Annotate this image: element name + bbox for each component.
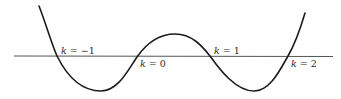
- crossing-label-k-minus-1: k = −1: [61, 46, 95, 56]
- function-graph: [0, 0, 341, 99]
- label-value: = −1: [67, 45, 95, 56]
- diagram-canvas: k = −1 k = 0 k = 1 k = 2: [0, 0, 341, 99]
- label-value: = 1: [220, 45, 240, 56]
- horizontal-axis: [14, 56, 333, 57]
- label-value: = 2: [297, 58, 317, 69]
- crossing-label-k-0: k = 0: [140, 59, 166, 69]
- crossing-label-k-1: k = 1: [214, 46, 240, 56]
- label-value: = 0: [146, 58, 166, 69]
- crossing-label-k-2: k = 2: [291, 59, 317, 69]
